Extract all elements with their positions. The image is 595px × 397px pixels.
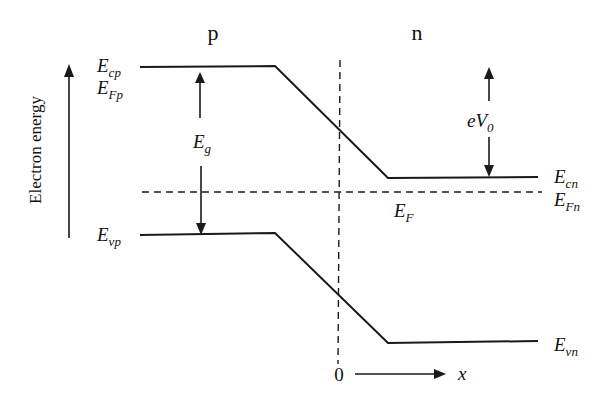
Ecn-label: Ecn [553,166,578,191]
n-region-label: n [412,20,423,45]
energy-axis-label: Electron energy [26,96,45,204]
band-diagram: p n Electron energy Eg eV0 Ecp EFp Evp [0,0,595,397]
Evp-label: Evp [96,224,121,249]
x-axis-arrow [355,369,446,379]
x-axis-label: x [457,363,467,384]
energy-axis-arrow [64,64,74,238]
EFp-label: EFp [96,77,124,102]
junction-line [338,60,340,364]
x-origin-label: 0 [334,364,344,385]
Evn-label: Evn [553,334,578,359]
built-in-potential-label: eV0 [467,110,494,135]
bandgap-label: Eg [192,131,212,156]
EF-label: EF [393,200,415,225]
EFn-label: EFn [553,189,580,214]
p-region-label: p [208,20,219,45]
